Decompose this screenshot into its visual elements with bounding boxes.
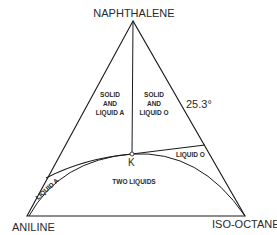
- triangle-outline: [27, 21, 245, 216]
- region-solid-liquid-o-line1: SOLID: [144, 91, 164, 98]
- region-solid-liquid-o-line3: LIQUID O: [140, 109, 169, 117]
- apex-to-k-line: [132, 21, 133, 154]
- vertex-label-aniline: ANILINE: [12, 221, 55, 233]
- point-k-label: K: [128, 157, 135, 168]
- vertex-label-isooctane: ISO-OCTANE: [212, 218, 277, 230]
- region-solid-liquid-o-line2: AND: [147, 100, 161, 107]
- region-liquid-a: LIQUID A: [34, 176, 61, 201]
- region-liquid-o: LIQUID O: [176, 151, 205, 159]
- temperature-label: 25.3°: [186, 98, 212, 110]
- vertex-label-naphthalene: NAPHTHALENE: [93, 7, 174, 19]
- ternary-diagram: NAPHTHALENE ANILINE ISO-OCTANE SOLID AND…: [0, 0, 277, 235]
- region-solid-liquid-a-line1: SOLID: [100, 91, 120, 98]
- point-k: [130, 152, 134, 156]
- region-two-liquids: TWO LIQUIDS: [112, 178, 156, 186]
- region-solid-liquid-a-line2: AND: [103, 100, 117, 107]
- region-solid-liquid-a-line3: LIQUID A: [96, 109, 125, 117]
